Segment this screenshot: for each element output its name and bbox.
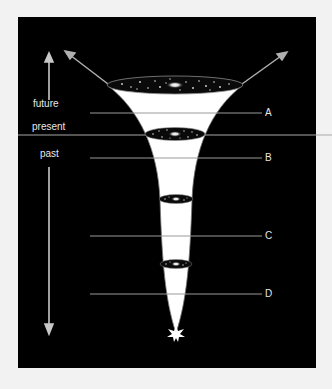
galaxy-disc-present xyxy=(145,128,205,141)
future-label: future xyxy=(33,99,59,109)
expansion-arrow-right xyxy=(242,52,287,84)
galaxy-disc-future xyxy=(107,76,243,94)
galaxy-disc-d xyxy=(160,260,192,269)
epoch-label-a: A xyxy=(265,108,272,118)
epoch-label-d: D xyxy=(265,289,272,299)
universe-cone xyxy=(107,85,243,333)
epoch-label-c: C xyxy=(265,231,272,241)
past-arrow-icon xyxy=(45,167,53,334)
present-label: present xyxy=(32,122,65,132)
future-arrow-icon xyxy=(45,53,53,100)
past-label: past xyxy=(40,149,59,159)
expansion-arrow-left xyxy=(65,51,108,84)
galaxy-disc-c xyxy=(159,195,193,204)
big-bang-star-icon xyxy=(167,326,185,342)
universe-expansion-diagram xyxy=(0,0,332,389)
epoch-label-b: B xyxy=(265,153,272,163)
